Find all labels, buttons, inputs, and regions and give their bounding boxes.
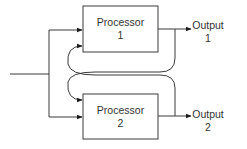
processor2-node: Processor 2 bbox=[83, 94, 158, 139]
output1-label-line2: 1 bbox=[205, 32, 211, 44]
output2-label-line1: Output bbox=[192, 108, 224, 120]
processor1-node: Processor 1 bbox=[83, 6, 158, 52]
processor2-label-line1: Processor bbox=[97, 104, 145, 116]
processor2-label-line2: 2 bbox=[118, 117, 124, 129]
processor-diagram: Processor 1 Processor 2 Output 1 Output … bbox=[0, 0, 247, 149]
output1-label-line1: Output bbox=[192, 19, 224, 31]
output2-label-line2: 2 bbox=[205, 121, 211, 133]
processor1-label-line2: 1 bbox=[118, 29, 124, 41]
processor1-label-line1: Processor bbox=[97, 16, 145, 28]
